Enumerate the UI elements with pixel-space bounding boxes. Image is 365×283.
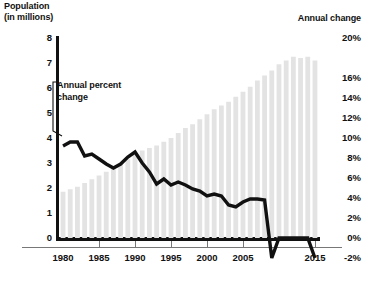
bar-2001 [212,109,217,238]
chart-plot-area [58,38,320,238]
bar-1998 [190,124,195,238]
bar-1996 [176,133,181,238]
bar-2000 [205,114,210,238]
bar-2012 [291,57,296,238]
bar-2002 [219,106,224,239]
bar-1984 [89,179,94,238]
bar-1980 [61,192,66,238]
bar-2003 [226,102,231,238]
bar-2014 [305,57,310,238]
bar-1999 [197,119,202,238]
bar-1981 [68,189,73,238]
bar-1990 [133,154,138,238]
bar-1994 [161,142,166,238]
bar-1982 [75,187,80,238]
bar-1995 [169,138,174,238]
bar-2010 [277,64,282,238]
bar-1989 [125,159,130,238]
bar-1986 [104,172,109,238]
bar-2011 [284,61,289,239]
bar-1992 [147,148,152,238]
bar-2015 [313,61,318,239]
bar-1983 [82,183,87,238]
bar-2006 [248,87,253,238]
bar-2013 [298,58,303,238]
bar-1993 [154,146,159,239]
bar-2009 [269,71,274,239]
annual-percent-change-annotation: Annual percentchange [57,80,121,103]
bar-2004 [233,97,238,238]
bar-1988 [118,164,123,238]
bar-2005 [241,92,246,238]
bar-1985 [97,176,102,239]
bar-1987 [111,168,116,238]
bar-2007 [255,81,260,239]
